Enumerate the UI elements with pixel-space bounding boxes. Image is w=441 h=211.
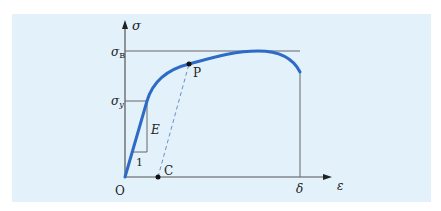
sigma-b-label: σB <box>111 45 125 60</box>
y-axis-arrow-icon <box>122 20 128 29</box>
sigma-y-label: σy <box>111 94 124 109</box>
stress-strain-diagram: σ ε O σB σy E 1 P C δ <box>0 0 441 211</box>
origin-label: O <box>115 184 125 198</box>
point-p-label: P <box>193 66 201 80</box>
point-p-marker <box>187 62 192 67</box>
delta-label: δ <box>296 182 303 196</box>
y-axis-label: σ <box>132 18 142 33</box>
point-c-marker <box>156 175 161 180</box>
modulus-label: E <box>150 123 160 137</box>
unit-run-label: 1 <box>136 156 143 169</box>
stress-strain-curve <box>125 51 300 177</box>
x-axis-arrow-icon <box>323 174 332 180</box>
x-axis-label: ε <box>337 179 343 193</box>
unloading-line <box>158 64 189 177</box>
point-c-label: C <box>164 164 173 178</box>
